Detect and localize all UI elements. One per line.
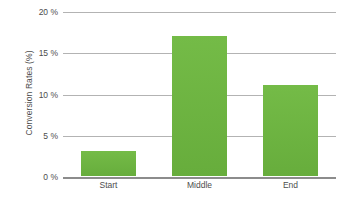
x-axis-tick-labels: Start Middle End <box>63 180 336 194</box>
gridline <box>63 12 336 13</box>
y-tick-label: 15 % <box>18 48 58 58</box>
bar-end <box>263 85 318 176</box>
y-axis-tick-labels: 20 % 15 % 10 % 5 % 0 % <box>18 0 58 206</box>
y-tick-label: 0 % <box>18 172 58 182</box>
x-tick-label-middle: Middle <box>154 180 245 190</box>
y-tick-label: 10 % <box>18 90 58 100</box>
caption-strip <box>0 196 342 206</box>
x-tick-label-end: End <box>245 180 336 190</box>
bar-start <box>81 151 136 176</box>
bar-middle <box>172 36 227 176</box>
y-tick-label: 5 % <box>18 131 58 141</box>
x-tick-label-start: Start <box>63 180 154 190</box>
bar-chart: Conversion Rates (%) 20 % 15 % 10 % 5 % … <box>0 0 342 206</box>
y-tick-label: 20 % <box>18 7 58 17</box>
axis-baseline <box>63 177 336 179</box>
plot-area <box>63 12 336 177</box>
